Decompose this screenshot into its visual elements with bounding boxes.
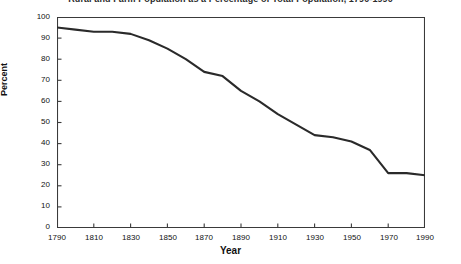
x-tick-label: 1850 xyxy=(148,234,188,242)
plot-area xyxy=(57,17,425,228)
x-tick-label: 1870 xyxy=(184,234,224,242)
x-tick-label: 1830 xyxy=(111,234,151,242)
line-chart-svg xyxy=(57,17,425,228)
x-tick-label: 1910 xyxy=(258,234,298,242)
x-tick-label: 1790 xyxy=(37,234,77,242)
chart-figure: Rural and Farm Population as a Percentag… xyxy=(0,0,461,264)
x-tick-label: 1970 xyxy=(369,234,409,242)
x-tick-label: 1990 xyxy=(405,234,445,242)
data-series-line xyxy=(57,28,425,176)
axis-lines xyxy=(57,17,425,228)
x-tick-label: 1810 xyxy=(74,234,114,242)
x-tick-label: 1950 xyxy=(332,234,372,242)
x-tick-label: 1930 xyxy=(295,234,335,242)
x-axis-title: Year xyxy=(0,245,461,256)
x-tick-label: 1890 xyxy=(221,234,261,242)
